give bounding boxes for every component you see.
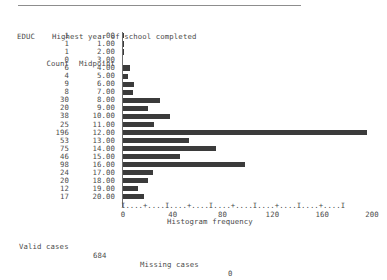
row-count: 4 [17, 72, 69, 80]
row-count: 1 [17, 40, 69, 48]
histogram-row: 45.00 [0, 72, 387, 80]
row-bar-track [123, 121, 373, 129]
row-bar [123, 114, 170, 119]
histogram-row: 1720.00 [0, 193, 387, 201]
row-bar-track [123, 72, 373, 80]
histogram-row: 19612.00 [0, 129, 387, 137]
row-count: 9 [17, 80, 69, 88]
missing-cases-value: 0 [228, 269, 233, 278]
row-bar [123, 98, 160, 103]
histogram-row: 9816.00 [0, 161, 387, 169]
row-bar-track [123, 161, 373, 169]
row-midpoint: 20.00 [79, 193, 115, 201]
row-bar-track [123, 112, 373, 120]
row-bar [123, 186, 138, 191]
row-bar-track [123, 32, 373, 40]
histogram-row: 1.00 [0, 32, 387, 40]
x-axis-title: Histogram frequency [167, 217, 253, 226]
report-footer: Valid cases 684 Missing cases 0 [0, 233, 387, 280]
row-bar [123, 178, 148, 183]
valid-cases-label: Valid cases [19, 242, 69, 251]
top-divider [18, 5, 301, 6]
row-bar [123, 122, 154, 127]
histogram-row: 03.00 [0, 56, 387, 64]
row-bar [123, 65, 130, 70]
row-bar [123, 41, 124, 46]
row-bar-track [123, 129, 373, 137]
histogram-row: 87.00 [0, 88, 387, 96]
valid-cases-value: 684 [93, 251, 107, 260]
row-bar [123, 194, 144, 199]
row-bar-track [123, 137, 373, 145]
row-count: 17 [17, 193, 69, 201]
histogram-row: 12.00 [0, 48, 387, 56]
x-tick-label: 160 [315, 210, 329, 219]
histogram-row: 7514.00 [0, 145, 387, 153]
histogram-row: 2417.00 [0, 169, 387, 177]
row-bar [123, 33, 124, 38]
row-bar-track [123, 56, 373, 64]
row-bar [123, 90, 133, 95]
histogram-row: 2018.00 [0, 177, 387, 185]
row-bar [123, 154, 180, 159]
row-bar-track [123, 145, 373, 153]
row-count: 1 [17, 48, 69, 56]
row-count: 6 [17, 64, 69, 72]
x-tick-label: 200 [365, 210, 379, 219]
x-axis-ruler: I....+....I....+....I....+....I....+....… [121, 202, 345, 210]
row-bar [123, 49, 124, 54]
row-bar-track [123, 185, 373, 193]
histogram-row: 64.00 [0, 64, 387, 72]
histogram-row: 5313.00 [0, 137, 387, 145]
row-bar [123, 82, 134, 87]
missing-cases-label: Missing cases [140, 260, 199, 269]
row-bar-track [123, 169, 373, 177]
histogram-rows: 1.0011.0012.0003.0064.0045.0096.0087.003… [0, 32, 387, 201]
row-bar-track [123, 153, 373, 161]
row-bar-track [123, 193, 373, 201]
histogram-row: 3810.00 [0, 112, 387, 120]
row-bar [123, 106, 148, 111]
row-bar [123, 146, 216, 151]
row-bar-track [123, 48, 373, 56]
row-bar [123, 170, 153, 175]
row-bar-track [123, 64, 373, 72]
row-bar-track [123, 80, 373, 88]
x-tick-label: 120 [266, 210, 280, 219]
row-bar-track [123, 40, 373, 48]
histogram-row: 4615.00 [0, 153, 387, 161]
histogram-row: 96.00 [0, 80, 387, 88]
row-bar-track [123, 104, 373, 112]
histogram-row: 209.00 [0, 104, 387, 112]
row-count: 0 [17, 56, 69, 64]
row-bar [123, 130, 367, 135]
row-bar-track [123, 177, 373, 185]
histogram-row: 1219.00 [0, 185, 387, 193]
row-bar-track [123, 96, 373, 104]
row-bar [123, 74, 128, 79]
row-bar [123, 138, 189, 143]
row-bar [123, 162, 245, 167]
x-tick-label: 0 [121, 210, 126, 219]
histogram-row: 308.00 [0, 96, 387, 104]
histogram-row: 11.00 [0, 40, 387, 48]
row-count: 1 [17, 32, 69, 40]
row-bar-track [123, 88, 373, 96]
